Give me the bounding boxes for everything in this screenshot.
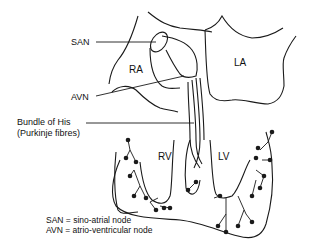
bundle-of-his-label: Bundle of His	[17, 117, 71, 127]
legend: SAN = sino-atrial node AVN = atrio-ventr…	[46, 216, 152, 235]
aortic-root	[150, 36, 197, 89]
rv-label: RV	[158, 152, 172, 162]
purkinje-label: (Purkinje fibres)	[17, 128, 80, 138]
right-atrium-outline	[109, 16, 178, 112]
ra-label: RA	[129, 65, 143, 75]
la-label: LA	[234, 58, 246, 68]
avn-label: AVN	[71, 92, 89, 102]
superior-vena-cava	[148, 12, 212, 32]
legend-avn: AVN = atrio-ventricular node	[46, 226, 152, 236]
left-atrium-outline	[205, 16, 296, 104]
leader-lines	[86, 42, 194, 123]
lv-label: LV	[218, 152, 230, 162]
avn-leader	[96, 76, 184, 96]
san-label: SAN	[71, 37, 90, 47]
